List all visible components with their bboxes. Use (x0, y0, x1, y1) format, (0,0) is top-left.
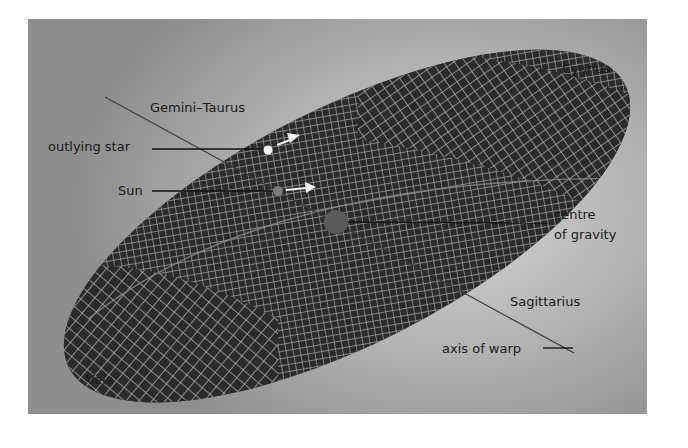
sun-icon (273, 186, 283, 196)
label-outlying-star: outlying star (48, 139, 130, 154)
label-centre: centre (554, 207, 596, 222)
centre-of-gravity-icon (324, 210, 348, 234)
label-axis-of-warp: axis of warp (442, 341, 521, 356)
outlying-star-icon (264, 146, 273, 155)
label-of-gravity: of gravity (554, 227, 616, 242)
label-gemini-taurus: Gemini–Taurus (150, 100, 245, 115)
label-cygnus: Cygnus (562, 61, 610, 76)
label-sagittarius: Sagittarius (510, 294, 580, 309)
diagram-figure: Gemini–Taurus outlying star Sun centre o… (28, 19, 647, 414)
label-vela: Vela (86, 372, 113, 387)
label-sun: Sun (118, 183, 143, 198)
